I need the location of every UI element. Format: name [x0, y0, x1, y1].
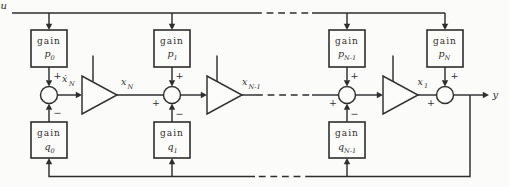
feedback-line	[49, 95, 470, 177]
signal-xdotN-subscript: N	[68, 80, 75, 88]
q1-gain-word: gain	[160, 128, 184, 138]
pNm1-gain-word: gain	[335, 36, 359, 46]
pN-gain-word: gain	[433, 36, 457, 46]
sum3-minus-sign: −	[351, 108, 359, 119]
integrator-2	[207, 56, 339, 115]
summing-junction-2	[164, 87, 181, 104]
stage-pN-output: gain p N + +	[427, 13, 489, 108]
arrowhead-into-integrator3	[377, 92, 383, 98]
output-label: y	[492, 89, 499, 100]
p0-gain-word: gain	[37, 36, 61, 46]
diagram-canvas: u gain p 0 + − gain q 0 ẋ N x N	[0, 0, 509, 187]
sum1-minus-sign: −	[54, 107, 62, 118]
summing-junction-3	[339, 87, 356, 104]
stage-p0-q0: gain p 0 + − gain q 0	[31, 13, 82, 164]
p1-subscript: 1	[174, 54, 178, 62]
sum2-plus-top: +	[176, 70, 184, 81]
sum2-plus-left: +	[152, 97, 160, 108]
input-label: u	[1, 0, 7, 11]
q1-subscript: 1	[174, 147, 178, 155]
arrowhead-into-integrator2	[201, 92, 207, 98]
arrowhead-into-q0	[46, 158, 52, 164]
qNm1-subscript: N-1	[343, 147, 356, 155]
p0-subscript: 0	[51, 54, 55, 62]
arrowhead-output	[483, 92, 489, 98]
sum4-plus-left: +	[427, 97, 435, 108]
filter-block-diagram: u gain p 0 + − gain q 0 ẋ N x N	[0, 0, 509, 187]
arrowhead-into-sum2-bottom	[169, 104, 175, 110]
summing-junction-1	[41, 87, 58, 104]
signal-xNm1: x	[242, 76, 248, 87]
arrowhead-into-sum3-top	[344, 80, 350, 86]
arrowhead-into-sum1-bottom	[46, 104, 52, 110]
arrowhead-into-sum4-top	[442, 80, 448, 86]
arrowhead-into-integrator1	[76, 92, 82, 98]
arrowhead-into-sum3-bottom	[344, 104, 350, 110]
sum3-plus-top: +	[351, 70, 359, 81]
summing-junction-4	[437, 87, 454, 104]
integrator2-triangle	[207, 76, 242, 114]
sum1-plus-sign: +	[54, 70, 62, 81]
integrator3-triangle	[383, 76, 418, 114]
sum4-plus-top: +	[451, 70, 459, 81]
signal-xN-subscript: N	[127, 83, 134, 91]
qNm1-gain-word: gain	[335, 128, 359, 138]
q0-subscript: 0	[51, 147, 55, 155]
p1-gain-word: gain	[160, 36, 184, 46]
signal-xN: x	[121, 76, 127, 87]
signal-x1: x	[418, 76, 424, 87]
signal-x1-subscript: 1	[424, 82, 428, 90]
arrowhead-into-sum2-top	[169, 80, 175, 86]
bottom-wire-left	[49, 164, 255, 177]
pNm1-subscript: N-1	[343, 54, 356, 62]
arrowhead-into-sum1-top	[46, 80, 52, 86]
pN-subscript: N	[444, 54, 451, 62]
arrowhead-into-pNm1	[344, 24, 350, 30]
arrowhead-into-q1	[169, 158, 175, 164]
sum3-plus-left: +	[329, 97, 337, 108]
sum2-minus-sign: −	[176, 108, 184, 119]
arrowhead-into-p1	[169, 24, 175, 30]
q0-gain-word: gain	[37, 128, 61, 138]
arrowhead-into-qNm1	[344, 158, 350, 164]
arrowhead-into-p0	[46, 24, 52, 30]
integrator1-triangle	[82, 76, 117, 114]
signal-xNm1-subscript: N-1	[248, 83, 261, 91]
arrowhead-into-pN	[442, 24, 448, 30]
signal-xdotN: ẋ	[62, 73, 68, 84]
